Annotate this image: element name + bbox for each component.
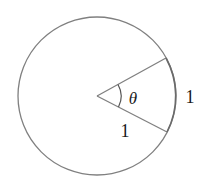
- angle-label: θ: [129, 89, 137, 108]
- unit-circle-diagram: θ 1 1: [0, 0, 210, 181]
- angle-arc: [118, 85, 121, 108]
- subtended-arc: [166, 58, 176, 132]
- radius-label: 1: [121, 121, 130, 141]
- arc-length-label: 1: [186, 87, 195, 107]
